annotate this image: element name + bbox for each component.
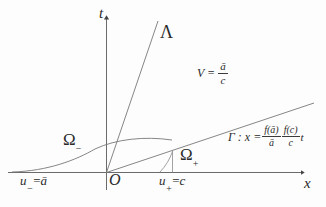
u-plus-equals: = (172, 173, 179, 188)
boundary-condition-right: u+=c (159, 174, 185, 191)
u-plus-symbol: u (159, 173, 166, 188)
boundary-condition-left: u−=ā (20, 174, 47, 191)
x-axis-label: x (304, 176, 311, 191)
u-minus-symbol: u (20, 173, 27, 188)
region-omega-plus: Ω+ (180, 146, 198, 166)
omega-plus-symbol: Ω (180, 145, 193, 164)
gamma-denominator-left: ā (262, 137, 280, 149)
u-minus-subscript: − (27, 183, 34, 194)
velocity-numerator: ā (218, 60, 228, 74)
gamma-equation-prefix: Γ : x = (228, 131, 261, 143)
rarefaction-curve (12, 138, 172, 172)
t-axis-label: t (99, 6, 103, 21)
u-plus-value: c (180, 173, 186, 188)
u-plus-subscript: + (166, 183, 173, 194)
omega-plus-angle-arc (160, 152, 173, 173)
lambda-label: Λ (160, 23, 173, 41)
gamma-numerator-right: f(c) (282, 124, 300, 137)
math-diagram-figure: t x O Λ V = ā c Γ : x = f(ā) ā f(c) c t … (0, 0, 326, 207)
gamma-fraction-left: f(ā) ā (262, 124, 280, 148)
gamma-fraction-right: f(c) c (282, 124, 300, 148)
gamma-equation-suffix: t (301, 132, 304, 143)
omega-minus-subscript: − (76, 143, 82, 154)
velocity-denominator: c (218, 74, 228, 87)
velocity-equation: V = ā c (197, 61, 228, 87)
u-minus-value: ā (41, 173, 48, 188)
region-omega-minus: Ω− (63, 131, 81, 151)
gamma-numerator-left: f(ā) (262, 124, 280, 137)
omega-minus-symbol: Ω (63, 130, 76, 149)
origin-label: O (109, 172, 121, 188)
velocity-fraction: ā c (218, 60, 228, 86)
velocity-symbol: V = (197, 66, 215, 80)
lambda-characteristic-line (107, 21, 159, 173)
omega-plus-subscript: + (193, 158, 199, 169)
gamma-equation: Γ : x = f(ā) ā f(c) c t (228, 125, 304, 149)
u-minus-equals: = (33, 173, 40, 188)
gamma-denominator-right: c (282, 137, 300, 149)
